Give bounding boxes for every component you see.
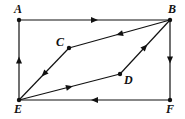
arrowhead-icon (91, 17, 98, 23)
node-C (67, 46, 71, 50)
node-label-A: A (13, 2, 22, 16)
node-label-C: C (56, 35, 65, 49)
node-A (17, 18, 21, 22)
node-B (168, 18, 172, 22)
node-D (118, 72, 122, 76)
directed-graph-diagram: ABCDEF (0, 0, 185, 119)
node-label-D: D (123, 73, 133, 87)
arrowhead-icon (16, 57, 22, 64)
node-label-B: B (167, 2, 176, 16)
arrowhead-icon (167, 57, 173, 64)
node-label-E: E (13, 102, 22, 116)
arrowhead-icon (91, 97, 98, 103)
graph-canvas: ABCDEF (0, 0, 185, 119)
node-label-F: F (165, 102, 174, 116)
